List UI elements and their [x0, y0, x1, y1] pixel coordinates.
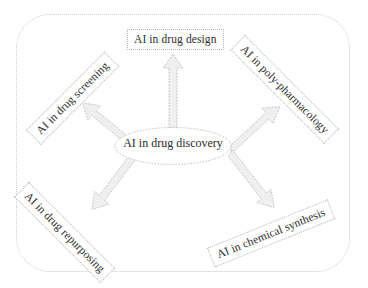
arrow-to-poly-pharmacology	[230, 107, 280, 153]
center-node-label: AI in drug discovery	[115, 136, 231, 151]
node-drug-design[interactable]: AI in drug design	[127, 29, 224, 50]
arrow-to-chemical-synthesis	[228, 150, 274, 207]
diagram-root: AI in drug discovery AI in drug design A…	[0, 0, 368, 288]
arrow-to-drug-design	[163, 54, 183, 128]
arrow-to-drug-repurposing	[92, 152, 138, 210]
